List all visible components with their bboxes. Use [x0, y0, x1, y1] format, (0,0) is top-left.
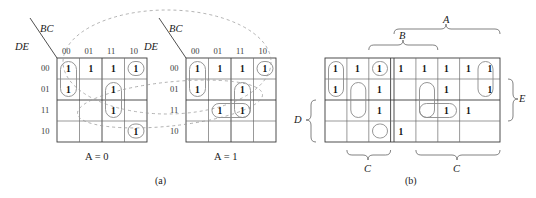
- bracket-label-E: E: [519, 94, 525, 105]
- kmap-a0-caption: A = 0: [85, 152, 108, 163]
- kmap-a0-cell-r0c3: 1: [134, 65, 139, 75]
- kmap-b-cell-r2c2: 1: [377, 107, 382, 117]
- kmap-a0-cell-r0c1: 1: [89, 65, 94, 75]
- kmap-a1-cell-r2c1: 1: [218, 107, 223, 117]
- bracket-label-B: B: [399, 31, 405, 42]
- kmap-b-cell-r2c6: 1: [466, 107, 471, 117]
- kmap-b-cell-r2c5: 1: [444, 107, 449, 117]
- kmap-a1-cell-r0c3: 1: [263, 65, 268, 75]
- kmap-b-cell-r0c5: 1: [444, 65, 449, 75]
- kmap-a0-cell-r1c0: 1: [66, 86, 71, 96]
- bracket-C-left: [347, 150, 391, 160]
- kmap-a0-row-var: DE: [15, 42, 29, 53]
- kmap-b-cell-r1c5: 1: [444, 86, 449, 96]
- kmap-a1-row-header-2: 11: [170, 106, 178, 115]
- kmap-b-cell-r1c7: 1: [488, 86, 493, 96]
- kmap-a0-cell-r1c2: 1: [111, 86, 116, 96]
- kmap-a1-grid: [159, 18, 276, 142]
- kmap-a0-cell-r0c2: 1: [111, 65, 116, 75]
- kmap-a0-cell-r3c3: 1: [134, 128, 139, 138]
- kmap-a1-cell-r2c2: 1: [240, 107, 245, 117]
- kmap-b-cell-r3c3: 1: [399, 128, 404, 138]
- bracket-label-A: A: [443, 15, 449, 26]
- bracket-label-C-right: C: [453, 164, 460, 175]
- bracket-D: [306, 100, 316, 142]
- bracket-A: [394, 24, 500, 34]
- kmap-a1-cell-r0c1: 1: [218, 65, 223, 75]
- dashed-link-top-row: [63, 10, 271, 114]
- kmap-a1-row-var: DE: [144, 42, 158, 53]
- kmap-a1-col-var: BC: [169, 24, 182, 35]
- kmap-a1-caption: A = 1: [214, 152, 237, 163]
- kmap-a0-cell-r2c2: 1: [111, 107, 116, 117]
- kmap-a0-col-header-0: 00: [62, 47, 71, 56]
- figure-karnaugh-maps: .grid{fill:none;stroke:#3b3b3b;stroke-wi…: [0, 0, 536, 198]
- bracket-E: [508, 79, 518, 121]
- kmap-a0-col-header-2: 11: [107, 47, 115, 56]
- kmap-b-cell-r0c2: 1: [377, 65, 382, 75]
- kmap-a1-row-header-3: 10: [170, 127, 179, 136]
- kmap-a0-col-header-3: 10: [130, 47, 139, 56]
- kmap-a0-row-header-1: 01: [41, 85, 50, 94]
- bracket-C-right: [416, 150, 500, 160]
- kmap-a0-row-header-2: 11: [41, 106, 49, 115]
- kmap-a1-cell-r0c2: 1: [240, 65, 245, 75]
- kmap-a1-col-header-0: 00: [191, 47, 200, 56]
- kmap-b-cell-r0c0: 1: [333, 65, 338, 75]
- group-col3-row3: [373, 124, 388, 138]
- kmap-a1-row-header-1: 01: [170, 85, 179, 94]
- kmap-b-cell-r0c4: 1: [422, 65, 427, 75]
- kmap-b-cell-r1c2: 1: [377, 86, 382, 96]
- kmap-a0-row-header-3: 10: [41, 127, 50, 136]
- kmap-a1-cell-r1c0: 1: [195, 86, 200, 96]
- bracket-label-D: D: [294, 115, 302, 126]
- bracket-label-C-left: C: [364, 164, 371, 175]
- kmap-a0-row-header-0: 00: [41, 64, 50, 73]
- kmap-b-cell-r1c0: 1: [333, 86, 338, 96]
- kmap-a1-col-header-1: 01: [214, 47, 223, 56]
- kmap-a0-col-var: BC: [40, 24, 53, 35]
- kmap-a1-cell-r0c0: 1: [195, 65, 200, 75]
- figure-caption-b: (b): [405, 176, 417, 186]
- figure-caption-a: (a): [155, 176, 166, 186]
- kmap-a0-cell-r0c0: 1: [66, 65, 71, 75]
- kmap-b-cell-r0c1: 1: [355, 65, 360, 75]
- kmap-a1-row-header-0: 00: [170, 64, 179, 73]
- kmap-b-cell-r0c6: 1: [466, 65, 471, 75]
- kmap-b-cell-r0c7: 1: [488, 65, 493, 75]
- kmap-a1-col-header-3: 10: [259, 47, 268, 56]
- kmap-a1-cell-r1c2: 1: [240, 86, 245, 96]
- kmap-a0-col-header-1: 01: [85, 47, 94, 56]
- bracket-B: [369, 40, 438, 50]
- kmap-a0-grid: [30, 18, 147, 142]
- kmap-a1-col-header-2: 11: [236, 47, 244, 56]
- kmap-b-cell-r0c3: 1: [399, 65, 404, 75]
